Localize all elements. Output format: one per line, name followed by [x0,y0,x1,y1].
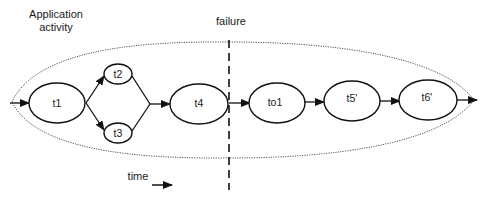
failure-label: failure [216,15,246,27]
svg-text:t2: t2 [114,68,123,80]
edge-t1-t3 [86,103,104,130]
svg-text:t6': t6' [422,91,433,103]
edge-t3-merge [132,104,150,131]
svg-text:t5': t5' [347,92,358,104]
node-t1: t1 [29,83,85,123]
svg-text:to1: to1 [268,96,283,108]
node-t2: t2 [104,64,132,84]
node-t5-prime: t5' [324,81,380,121]
time-label: time [128,170,149,182]
node-t3: t3 [104,123,132,143]
node-t4: t4 [170,84,228,124]
node-t6-prime: t6' [399,80,457,120]
application-activity-label-2: activity [39,21,73,33]
edge-t2-merge [132,76,150,104]
node-to1: to1 [249,83,305,123]
svg-text:t3: t3 [114,127,123,139]
svg-text:t1: t1 [53,97,62,109]
svg-text:t4: t4 [195,97,204,109]
application-activity-label-1: Application [29,8,83,20]
activity-diagram: Application activity failure time t1 t2 … [0,0,482,197]
edge-t1-t2 [86,76,104,103]
